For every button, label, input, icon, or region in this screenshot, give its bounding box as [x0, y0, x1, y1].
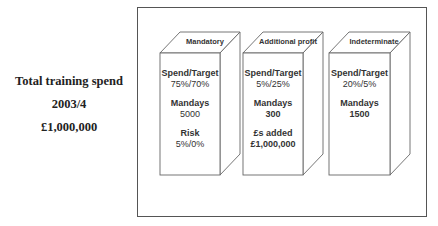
metric-label: Mandays	[243, 98, 303, 109]
metric-mandays: Mandays 5000	[160, 98, 220, 120]
metric-mandays: Mandays 1500	[329, 98, 390, 120]
metric-label: £s added	[243, 128, 303, 139]
metric-value: 75%/70%	[160, 79, 220, 90]
box-title-mandatory: Mandatory	[176, 37, 234, 47]
metric-risk: Risk 5%/0%	[160, 128, 220, 150]
metric-value: 5%/0%	[160, 139, 220, 150]
box-indeterminate-content: Spend/Target 20%/5% Mandays 1500	[329, 68, 390, 128]
metric-label: Risk	[160, 128, 220, 139]
box-mandatory-content: Spend/Target 75%/70% Mandays 5000 Risk 5…	[160, 68, 220, 158]
metric-value: 300	[243, 109, 303, 120]
metric-value: 1500	[329, 109, 390, 120]
metric-label: Spend/Target	[160, 68, 220, 79]
metric-value: £1,000,000	[243, 139, 303, 150]
metric-value: 5%/25%	[243, 79, 303, 90]
metric-value: 20%/5%	[329, 79, 390, 90]
box-title-indeterminate: Indeterminate	[344, 37, 404, 47]
metric-pounds-added: £s added £1,000,000	[243, 128, 303, 150]
metric-spend-target: Spend/Target 5%/25%	[243, 68, 303, 90]
metric-label: Spend/Target	[243, 68, 303, 79]
metric-spend-target: Spend/Target 20%/5%	[329, 68, 390, 90]
box-title-additional-profit: Additional profit	[255, 37, 321, 47]
metric-label: Mandays	[329, 98, 390, 109]
metric-value: 5000	[160, 109, 220, 120]
metric-label: Mandays	[160, 98, 220, 109]
metric-label: Spend/Target	[329, 68, 390, 79]
box-additional-profit-content: Spend/Target 5%/25% Mandays 300 £s added…	[243, 68, 303, 158]
metric-mandays: Mandays 300	[243, 98, 303, 120]
metric-spend-target: Spend/Target 75%/70%	[160, 68, 220, 90]
